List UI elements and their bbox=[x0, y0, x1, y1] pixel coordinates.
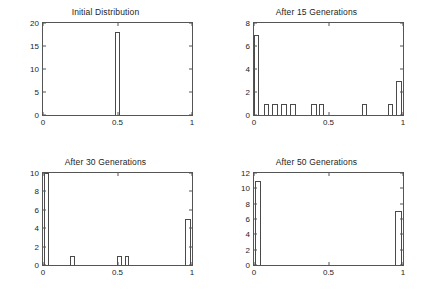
histogram-bar bbox=[272, 104, 277, 116]
y-axis-tick-label: 8 bbox=[246, 19, 250, 28]
y-axis-tick-mark bbox=[189, 46, 192, 47]
x-axis-tick-mark bbox=[192, 23, 193, 26]
x-axis-tick-mark bbox=[254, 173, 255, 176]
x-axis-tick-label: 0 bbox=[252, 118, 256, 127]
x-axis-tick-mark bbox=[328, 112, 329, 115]
histogram-bar bbox=[255, 181, 262, 265]
y-axis-tick-label: 10 bbox=[30, 65, 39, 74]
panel-title: Initial Distribution bbox=[0, 7, 211, 17]
histogram-bar bbox=[388, 104, 393, 116]
plot-area bbox=[254, 23, 403, 115]
y-axis-tick-mark bbox=[189, 246, 192, 247]
x-axis-tick-mark bbox=[403, 23, 404, 26]
x-axis-tick-mark bbox=[254, 112, 255, 115]
y-axis-tick-mark bbox=[254, 234, 257, 235]
y-axis-tick-mark bbox=[400, 249, 403, 250]
chart-panel-after-15-generations: After 15 Generations 0246800.51 bbox=[211, 0, 422, 150]
y-axis-tick-mark bbox=[189, 92, 192, 93]
y-axis-tick-mark bbox=[400, 69, 403, 70]
histogram-bar bbox=[264, 104, 269, 116]
panel-title: After 50 Generations bbox=[211, 157, 422, 167]
x-axis-tick-label: 1 bbox=[190, 118, 194, 127]
y-axis-tick-mark bbox=[43, 246, 46, 247]
x-axis-tick-label: 1 bbox=[401, 268, 405, 277]
panel-title: After 30 Generations bbox=[0, 157, 211, 167]
x-axis-tick-mark bbox=[43, 23, 44, 26]
histogram-bar bbox=[44, 173, 48, 265]
y-axis-tick-label: 0 bbox=[246, 261, 250, 270]
histogram-bar bbox=[396, 81, 401, 116]
y-axis-tick-mark bbox=[43, 69, 46, 70]
plot-axes: 0510152000.51 bbox=[42, 22, 193, 116]
y-axis-tick-mark bbox=[254, 203, 257, 204]
x-axis-tick-mark bbox=[192, 112, 193, 115]
y-axis-tick-label: 4 bbox=[35, 224, 39, 233]
histogram-bar bbox=[319, 104, 324, 116]
y-axis-tick-label: 6 bbox=[246, 42, 250, 51]
plot-axes: 02468101200.51 bbox=[253, 172, 404, 266]
x-axis-tick-mark bbox=[43, 262, 44, 265]
y-axis-tick-mark bbox=[43, 209, 46, 210]
y-axis-tick-label: 10 bbox=[30, 169, 39, 178]
x-axis-tick-mark bbox=[403, 112, 404, 115]
x-axis-tick-label: 0.5 bbox=[112, 268, 123, 277]
y-axis-tick-label: 6 bbox=[35, 205, 39, 214]
y-axis-tick-mark bbox=[400, 219, 403, 220]
y-axis-tick-label: 2 bbox=[35, 242, 39, 251]
chart-panel-after-30-generations: After 30 Generations 024681000.51 bbox=[0, 150, 211, 300]
histogram-bar bbox=[254, 35, 259, 116]
y-axis-tick-mark bbox=[43, 191, 46, 192]
x-axis-tick-label: 0 bbox=[41, 118, 45, 127]
x-axis-tick-label: 0.5 bbox=[323, 268, 334, 277]
x-axis-tick-mark bbox=[192, 173, 193, 176]
x-axis-tick-mark bbox=[43, 112, 44, 115]
y-axis-tick-mark bbox=[189, 209, 192, 210]
y-axis-tick-mark bbox=[43, 228, 46, 229]
y-axis-tick-mark bbox=[189, 69, 192, 70]
x-axis-tick-mark bbox=[328, 262, 329, 265]
y-axis-tick-label: 8 bbox=[35, 187, 39, 196]
y-axis-tick-mark bbox=[254, 219, 257, 220]
y-axis-tick-mark bbox=[400, 234, 403, 235]
chart-panel-initial-distribution: Initial Distribution 0510152000.51 bbox=[0, 0, 211, 150]
y-axis-tick-label: 0 bbox=[35, 111, 39, 120]
y-axis-tick-label: 20 bbox=[30, 19, 39, 28]
y-axis-tick-mark bbox=[254, 46, 257, 47]
y-axis-tick-label: 4 bbox=[246, 230, 250, 239]
y-axis-tick-mark bbox=[189, 191, 192, 192]
y-axis-tick-mark bbox=[254, 69, 257, 70]
y-axis-tick-mark bbox=[189, 228, 192, 229]
histogram-bar bbox=[290, 104, 295, 116]
x-axis-tick-mark bbox=[43, 173, 44, 176]
y-axis-tick-mark bbox=[254, 188, 257, 189]
y-axis-tick-mark bbox=[400, 92, 403, 93]
x-axis-tick-mark bbox=[254, 262, 255, 265]
x-axis-tick-label: 0.5 bbox=[112, 118, 123, 127]
x-axis-tick-mark bbox=[254, 23, 255, 26]
panel-title: After 15 Generations bbox=[211, 7, 422, 17]
y-axis-tick-label: 2 bbox=[246, 88, 250, 97]
x-axis-tick-label: 0 bbox=[252, 268, 256, 277]
x-axis-tick-mark bbox=[117, 173, 118, 176]
x-axis-tick-mark bbox=[403, 262, 404, 265]
y-axis-tick-label: 10 bbox=[241, 184, 250, 193]
y-axis-tick-label: 5 bbox=[35, 88, 39, 97]
histogram-bar bbox=[311, 104, 316, 116]
histogram-bar bbox=[70, 256, 75, 265]
x-axis-tick-mark bbox=[328, 173, 329, 176]
y-axis-tick-label: 0 bbox=[246, 111, 250, 120]
y-axis-tick-label: 2 bbox=[246, 245, 250, 254]
histogram-bar bbox=[362, 104, 367, 116]
y-axis-tick-label: 8 bbox=[246, 199, 250, 208]
y-axis-tick-mark bbox=[400, 203, 403, 204]
y-axis-tick-mark bbox=[254, 249, 257, 250]
y-axis-tick-label: 0 bbox=[35, 261, 39, 270]
y-axis-tick-mark bbox=[400, 46, 403, 47]
x-axis-tick-mark bbox=[192, 262, 193, 265]
histogram-bar bbox=[281, 104, 286, 116]
plot-axes: 0246800.51 bbox=[253, 22, 404, 116]
y-axis-tick-mark bbox=[400, 188, 403, 189]
x-axis-tick-label: 1 bbox=[401, 118, 405, 127]
x-axis-tick-mark bbox=[117, 23, 118, 26]
y-axis-tick-label: 4 bbox=[246, 65, 250, 74]
